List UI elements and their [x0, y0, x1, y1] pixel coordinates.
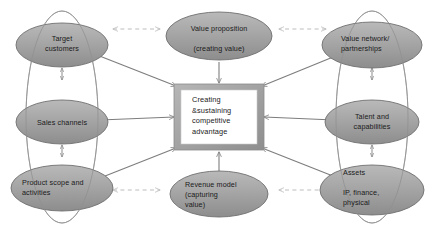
arrow-product-scope-to-center: [100, 148, 176, 178]
ellipse-assets: [320, 165, 424, 215]
business-model-diagram: Target customers Sales channels Product …: [0, 0, 437, 234]
ellipse-sales-channels: [16, 100, 108, 144]
ellipse-talent-capabilities: [325, 100, 419, 144]
ellipse-revenue-model: [170, 171, 268, 217]
ellipse-target-customers: [16, 23, 108, 67]
arrow-assets-to-center: [262, 148, 338, 178]
arrow-talent-to-center: [264, 117, 334, 120]
arrow-value-network-to-center: [262, 55, 338, 86]
ellipse-product-scope: [11, 165, 113, 211]
diagram-canvas: [0, 0, 437, 234]
ellipse-value-proposition: [166, 12, 272, 60]
arrow-target-customers-to-center: [97, 55, 176, 86]
arrow-sales-channels-to-center: [100, 117, 174, 120]
ellipse-value-network: [322, 22, 422, 68]
center-box: [174, 84, 264, 150]
